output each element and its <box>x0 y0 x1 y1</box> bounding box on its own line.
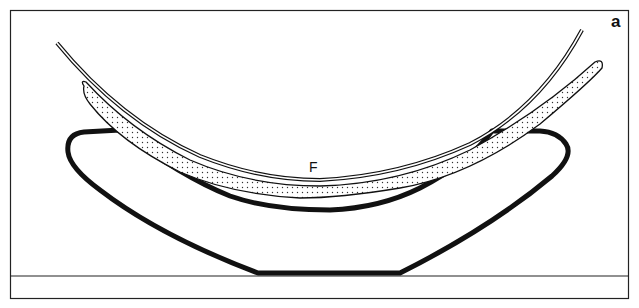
curve-label-f: F <box>309 159 318 175</box>
thin-curve-F-outer <box>57 30 582 180</box>
panel-label: a <box>611 12 621 31</box>
diagram-figure: F a <box>0 0 639 308</box>
thin-curve-F-inner <box>57 30 582 180</box>
outer-frame <box>11 11 629 299</box>
